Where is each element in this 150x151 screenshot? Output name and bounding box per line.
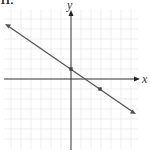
x-axis-arrow-icon [134, 77, 140, 82]
point-3-neg1 [98, 87, 101, 90]
y-axis-label: y [66, 0, 73, 12]
x-axis-label: x [141, 72, 148, 86]
coordinate-plane: x y [0, 0, 150, 151]
point-0-1 [69, 67, 72, 70]
axes [4, 14, 136, 150]
